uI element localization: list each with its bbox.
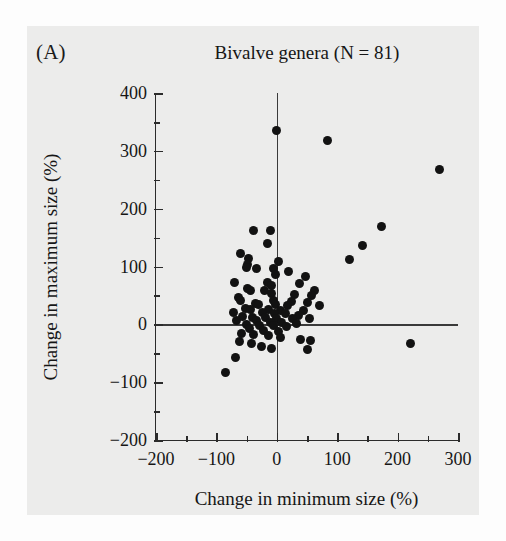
y-tick-label: 100 <box>120 256 147 277</box>
x-tick-label: −100 <box>198 449 235 470</box>
data-point <box>246 286 255 295</box>
y-tick-major <box>154 382 163 384</box>
y-tick-major <box>154 267 163 269</box>
y-axis-label: Change in maximum size (%) <box>38 93 64 441</box>
y-tick-label: 0 <box>138 314 147 335</box>
data-point <box>292 319 301 328</box>
data-point <box>242 263 251 272</box>
y-tick-minor <box>154 295 160 297</box>
x-tick-label: −200 <box>137 449 174 470</box>
data-point <box>284 267 293 276</box>
data-point <box>252 264 261 273</box>
x-tick-major <box>216 433 218 442</box>
y-tick-label: 300 <box>120 140 147 161</box>
x-tick-major <box>398 433 400 442</box>
x-tick-major <box>277 433 279 442</box>
data-point <box>266 226 275 235</box>
x-tick-minor <box>367 436 369 442</box>
data-point <box>231 353 240 362</box>
data-point <box>272 126 281 135</box>
data-point <box>358 241 367 250</box>
data-point <box>435 165 444 174</box>
figure-page: (A) Bivalve genera (N = 81) Change in ma… <box>0 0 506 541</box>
x-tick-major <box>156 433 158 442</box>
x-tick-minor <box>186 436 188 442</box>
data-point <box>230 278 239 287</box>
data-point <box>276 333 285 342</box>
y-tick-major <box>154 209 163 211</box>
x-tick-minor <box>307 436 309 442</box>
x-tick-label: 200 <box>384 449 411 470</box>
data-point <box>249 330 258 339</box>
data-point <box>377 222 386 231</box>
y-tick-minor <box>154 122 160 124</box>
y-tick-minor <box>154 180 160 182</box>
data-point <box>264 331 273 340</box>
y-tick-major <box>154 324 163 326</box>
data-point <box>247 339 256 348</box>
panel-label: (A) <box>36 40 66 65</box>
y-tick-label: 400 <box>120 83 147 104</box>
x-tick-minor <box>247 436 249 442</box>
plot-area: −200−1000100200300400−200−1000100200300 <box>155 93 458 441</box>
x-axis-label: Change in minimum size (%) <box>155 488 458 510</box>
data-point <box>305 314 314 323</box>
data-point <box>267 344 276 353</box>
y-tick-minor <box>154 411 160 413</box>
x-tick-minor <box>428 436 430 442</box>
x-tick-major <box>337 433 339 442</box>
data-point <box>249 226 258 235</box>
x-tick-label: 300 <box>445 449 472 470</box>
data-point <box>263 239 272 248</box>
y-tick-label: −200 <box>110 430 147 451</box>
y-tick-minor <box>154 353 160 355</box>
y-tick-minor <box>154 238 160 240</box>
data-point <box>271 270 280 279</box>
data-point <box>345 255 354 264</box>
data-point <box>295 279 304 288</box>
y-tick-major <box>154 93 163 95</box>
x-tick-label: 100 <box>324 449 351 470</box>
chart-title: Bivalve genera (N = 81) <box>155 42 459 64</box>
x-tick-label: 0 <box>272 449 281 470</box>
data-point <box>303 345 312 354</box>
data-point <box>282 322 291 331</box>
data-point <box>221 368 230 377</box>
data-point <box>323 136 332 145</box>
data-point <box>235 337 244 346</box>
data-point <box>406 339 415 348</box>
data-point <box>306 336 315 345</box>
plot-inner <box>156 93 458 440</box>
zero-line-horizontal <box>156 324 458 325</box>
x-tick-major <box>458 433 460 442</box>
data-point <box>296 335 305 344</box>
data-point <box>257 342 266 351</box>
y-axis-label-text: Change in maximum size (%) <box>40 154 62 381</box>
data-point <box>315 301 324 310</box>
y-tick-label: −100 <box>110 372 147 393</box>
y-tick-major <box>154 151 163 153</box>
y-tick-label: 200 <box>120 198 147 219</box>
